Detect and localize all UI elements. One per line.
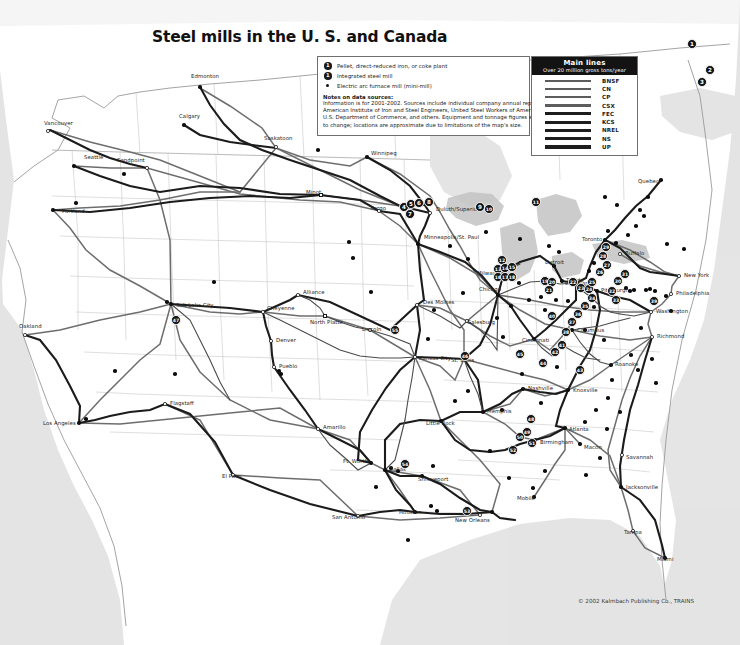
minimill-marker[interactable] — [520, 372, 524, 376]
minimill-marker[interactable] — [598, 456, 602, 460]
minimill-marker[interactable] — [518, 237, 522, 241]
steel-mill-marker[interactable]: 50 — [515, 432, 525, 442]
minimill-marker[interactable] — [122, 172, 126, 176]
steel-mill-marker[interactable]: 11 — [531, 197, 541, 207]
minimill-marker[interactable] — [426, 337, 430, 341]
steel-mill-marker[interactable]: 42 — [550, 347, 560, 357]
minimill-marker[interactable] — [448, 244, 452, 248]
steel-mill-marker[interactable]: 46 — [460, 351, 470, 361]
minimill-marker[interactable] — [632, 288, 636, 292]
steel-mill-marker[interactable]: 21 — [544, 285, 554, 295]
minimill-marker[interactable] — [488, 449, 492, 453]
steel-mill-marker[interactable]: 45 — [515, 349, 525, 359]
minimill-marker[interactable] — [495, 316, 499, 320]
steel-mill-marker[interactable]: 29 — [601, 242, 611, 252]
minimill-marker[interactable] — [648, 287, 652, 291]
minimill-marker[interactable] — [583, 420, 587, 424]
minimill-marker[interactable] — [431, 464, 435, 468]
minimill-marker[interactable] — [603, 195, 607, 199]
minimill-marker[interactable] — [634, 224, 638, 228]
steel-mill-marker[interactable]: 2 — [705, 65, 715, 75]
minimill-marker[interactable] — [432, 308, 436, 312]
minimill-marker[interactable] — [642, 214, 646, 218]
minimill-marker[interactable] — [650, 357, 654, 361]
steel-mill-marker[interactable]: 44 — [538, 358, 548, 368]
minimill-marker[interactable] — [543, 308, 547, 312]
steel-mill-marker[interactable]: 52 — [508, 445, 518, 455]
minimill-marker[interactable] — [587, 269, 591, 273]
minimill-marker[interactable] — [610, 378, 614, 382]
minimill-marker[interactable] — [682, 247, 686, 251]
steel-mill-marker[interactable]: 53 — [462, 506, 472, 516]
minimill-marker[interactable] — [592, 261, 596, 265]
minimill-marker[interactable] — [527, 298, 531, 302]
minimill-marker[interactable] — [646, 195, 650, 199]
steel-mill-marker[interactable]: 18 — [507, 272, 517, 282]
minimill-marker[interactable] — [531, 486, 535, 490]
steel-mill-marker[interactable]: 31 — [620, 269, 630, 279]
minimill-marker[interactable] — [629, 353, 633, 357]
steel-mill-marker[interactable]: 1 — [687, 39, 697, 49]
minimill-marker[interactable] — [615, 203, 619, 207]
minimill-marker[interactable] — [429, 504, 433, 508]
minimill-marker[interactable] — [566, 299, 570, 303]
minimill-marker[interactable] — [466, 257, 470, 261]
minimill-marker[interactable] — [606, 396, 610, 400]
steel-mill-marker[interactable]: 8 — [424, 197, 434, 207]
minimill-marker[interactable] — [316, 148, 320, 152]
steel-mill-marker[interactable]: 54 — [400, 459, 410, 469]
steel-mill-marker[interactable]: 10 — [484, 204, 494, 214]
minimill-marker[interactable] — [173, 372, 177, 376]
minimill-marker[interactable] — [653, 289, 657, 293]
minimill-marker[interactable] — [602, 338, 606, 342]
minimill-marker[interactable] — [484, 230, 488, 234]
minimill-marker[interactable] — [547, 244, 551, 248]
minimill-marker[interactable] — [618, 410, 622, 414]
steel-mill-marker[interactable]: 7 — [405, 209, 415, 219]
minimill-marker[interactable] — [605, 427, 609, 431]
minimill-marker[interactable] — [461, 291, 465, 295]
minimill-marker[interactable] — [369, 290, 373, 294]
minimill-marker[interactable] — [543, 469, 547, 473]
minimill-marker[interactable] — [501, 335, 505, 339]
steel-mill-marker[interactable]: 3 — [697, 77, 707, 87]
steel-mill-marker[interactable]: 48 — [526, 414, 536, 424]
minimill-marker[interactable] — [406, 538, 410, 542]
steel-mill-marker[interactable]: 35 — [580, 301, 590, 311]
minimill-marker[interactable] — [351, 256, 355, 260]
minimill-marker[interactable] — [594, 408, 598, 412]
minimill-marker[interactable] — [347, 240, 351, 244]
minimill-marker[interactable] — [636, 368, 640, 372]
minimill-marker[interactable] — [435, 509, 439, 513]
minimill-marker[interactable] — [665, 242, 669, 246]
minimill-marker[interactable] — [466, 389, 470, 393]
minimill-marker[interactable] — [639, 326, 643, 330]
steel-mill-marker[interactable]: 43 — [575, 365, 585, 375]
minimill-marker[interactable] — [517, 281, 521, 285]
minimill-marker[interactable] — [626, 233, 630, 237]
minimill-marker[interactable] — [539, 295, 543, 299]
steel-mill-marker[interactable]: 39 — [649, 296, 659, 306]
minimill-marker[interactable] — [638, 208, 642, 212]
minimill-marker[interactable] — [113, 369, 117, 373]
steel-mill-marker[interactable]: 47 — [171, 315, 181, 325]
minimill-marker[interactable] — [279, 372, 283, 376]
steel-mill-marker[interactable]: 51 — [527, 438, 537, 448]
minimill-marker[interactable] — [507, 476, 511, 480]
minimill-marker[interactable] — [606, 229, 610, 233]
minimill-marker[interactable] — [453, 399, 457, 403]
minimill-marker[interactable] — [654, 381, 658, 385]
steel-mill-marker[interactable]: 25 — [587, 277, 597, 287]
minimill-marker[interactable] — [614, 241, 618, 245]
minimill-marker[interactable] — [84, 417, 88, 421]
steel-mill-marker[interactable]: 6 — [414, 198, 424, 208]
steel-mill-marker[interactable]: 33 — [611, 295, 621, 305]
minimill-marker[interactable] — [490, 510, 494, 514]
minimill-marker[interactable] — [509, 304, 513, 308]
minimill-marker[interactable] — [555, 365, 559, 369]
steel-mill-marker[interactable]: 15 — [507, 262, 517, 272]
steel-mill-marker[interactable]: 34 — [587, 293, 597, 303]
minimill-marker[interactable] — [584, 473, 588, 477]
minimill-marker[interactable] — [592, 305, 596, 309]
minimill-marker[interactable] — [554, 298, 558, 302]
